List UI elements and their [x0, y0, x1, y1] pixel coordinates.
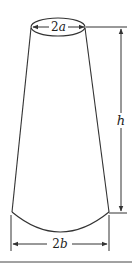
- top-diameter-label: 2a: [51, 20, 66, 34]
- height-label: h: [117, 113, 125, 128]
- bottom-curve: [12, 212, 109, 232]
- cone-shape: [12, 18, 109, 232]
- cone-diagram: 2a h 2b: [0, 0, 137, 271]
- right-side: [85, 28, 109, 212]
- left-side: [12, 28, 31, 212]
- bottom-diameter-label: 2b: [52, 237, 67, 251]
